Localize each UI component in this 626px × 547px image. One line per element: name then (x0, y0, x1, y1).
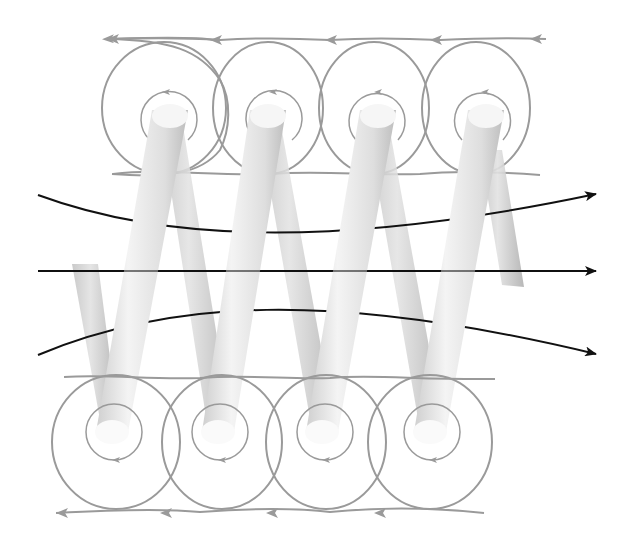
bottom-small-loop-arrows (112, 457, 437, 463)
wire-bottom-end-2 (201, 420, 235, 444)
wire-bottom-end-1 (95, 420, 129, 444)
wire-top-end-2 (250, 104, 286, 128)
wire-top-end-1 (152, 104, 188, 128)
wire-top-end-4 (468, 104, 504, 128)
top-small-loops (141, 91, 511, 140)
wire-top-end-3 (360, 104, 396, 128)
wire-bottom-end-3 (305, 420, 339, 444)
solenoid-diagram (0, 0, 626, 547)
wire-bottom-end-4 (413, 420, 447, 444)
arrow-left-icon (481, 89, 489, 95)
top-small-loop-arrows (162, 89, 489, 95)
